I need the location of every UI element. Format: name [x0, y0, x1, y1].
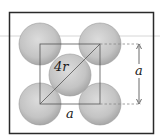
label-edge-bottom: a [66, 106, 74, 121]
label-4r: 4r [53, 59, 69, 74]
fcc-face-diagram: 4r a a [0, 0, 160, 138]
label-edge-right: a [135, 63, 143, 78]
